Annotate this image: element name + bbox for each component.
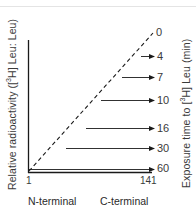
time-label-4: 4 bbox=[157, 51, 163, 62]
time-label-7: 7 bbox=[157, 72, 163, 83]
time-label-30: 30 bbox=[157, 143, 169, 154]
exposure-label-prefix: Exposure time to [ bbox=[180, 102, 192, 188]
time-label-60: 60 bbox=[157, 163, 169, 174]
y-axis-label: Relative radioactivity ([3H] Leu: Leu) bbox=[5, 19, 18, 190]
arrow-group bbox=[29, 57, 154, 170]
y-axis-label-suffix: H] Leu: Leu) bbox=[6, 19, 18, 78]
diagonal-dashed-line bbox=[29, 33, 153, 171]
time-label-0: 0 bbox=[156, 27, 162, 38]
c-terminal-label: C-terminal bbox=[100, 195, 148, 207]
time-label-10: 10 bbox=[157, 95, 169, 106]
x-tick-141: 141 bbox=[140, 175, 157, 186]
exposure-time-axis-label: Exposure time to [3H] Leu (min) bbox=[179, 39, 192, 188]
y-axis-label-prefix: Relative radioactivity ([ bbox=[6, 82, 18, 190]
n-terminal-label: N-terminal bbox=[28, 195, 76, 207]
x-tick-1: 1 bbox=[26, 175, 32, 186]
time-label-16: 16 bbox=[157, 123, 169, 134]
exposure-label-suffix: H] Leu (min) bbox=[180, 39, 192, 98]
exposure-label-sup: 3 bbox=[179, 98, 186, 102]
y-axis-label-sup: 3 bbox=[5, 78, 12, 82]
